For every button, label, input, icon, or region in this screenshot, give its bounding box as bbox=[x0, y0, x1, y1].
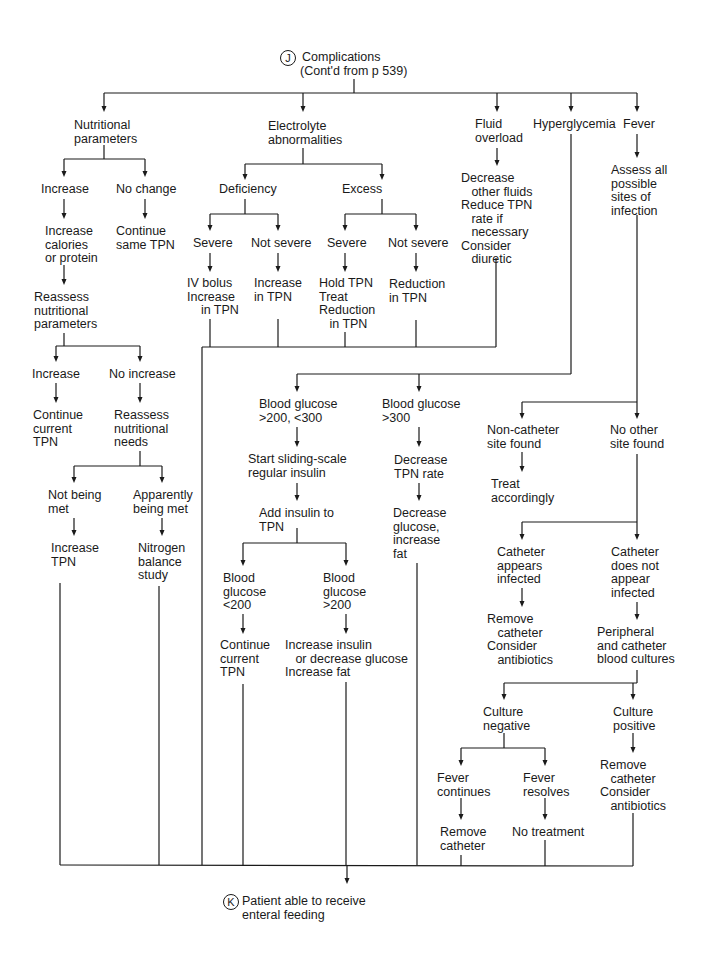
node-reassess-needs: Reassessnutritionalneeds bbox=[114, 409, 169, 450]
node-sliding-scale-insulin: Start sliding-scaleregular insulin bbox=[248, 453, 347, 480]
node-reduction-in-tpn: Reductionin TPN bbox=[389, 278, 445, 305]
node-line: Blood glucose bbox=[382, 398, 461, 412]
node-line: Blood bbox=[323, 572, 366, 586]
node-line: Not severe bbox=[388, 237, 448, 251]
arrowhead bbox=[301, 106, 306, 112]
node-line: Apparently bbox=[133, 489, 193, 503]
node-line: appears bbox=[497, 560, 545, 574]
node-line: Severe bbox=[193, 237, 233, 251]
node-line: Patient able to receive bbox=[242, 895, 366, 909]
header-subtitle: (Cont'd from p 539) bbox=[300, 65, 407, 79]
node-line: Catheter bbox=[497, 546, 545, 560]
node-line: accordingly bbox=[491, 492, 554, 506]
node-fluid-overload: Fluidoverload bbox=[475, 118, 523, 145]
node-increase-tpn: IncreaseTPN bbox=[51, 542, 99, 569]
arrowhead bbox=[276, 266, 281, 272]
node-fever: Fever bbox=[623, 118, 655, 132]
node-line: infected bbox=[611, 587, 659, 601]
arrowhead bbox=[631, 694, 636, 700]
node-no-other-site: No othersite found bbox=[610, 424, 664, 451]
arrowhead bbox=[417, 386, 422, 392]
node-line: No treatment bbox=[512, 826, 584, 840]
connector-marker-k: K bbox=[223, 894, 239, 910]
arrowhead bbox=[635, 106, 640, 112]
node-line: <200 bbox=[223, 599, 266, 613]
node-electrolyte-abnormalities: Electrolyteabnormalities bbox=[268, 120, 342, 147]
arrowhead bbox=[54, 356, 59, 362]
arrowhead bbox=[160, 477, 165, 483]
node-line: Remove bbox=[440, 826, 487, 840]
node-line: TPN bbox=[33, 436, 83, 450]
node-line: Culture bbox=[483, 706, 530, 720]
node-np-no-change: No change bbox=[116, 183, 176, 197]
arrowhead bbox=[72, 530, 77, 536]
node-line: necessary bbox=[461, 226, 533, 240]
arrowhead bbox=[208, 225, 213, 231]
node-line: other fluids bbox=[461, 186, 533, 200]
arrowhead bbox=[520, 534, 525, 540]
arrowhead bbox=[54, 397, 59, 403]
node-line: Fluid bbox=[475, 118, 523, 132]
node-line: glucose bbox=[323, 586, 366, 600]
node-line: catheter bbox=[600, 773, 666, 787]
arrowhead bbox=[343, 266, 348, 272]
arrowhead bbox=[62, 171, 67, 177]
node-continue-current-tpn-2: ContinuecurrentTPN bbox=[220, 639, 270, 680]
node-line: met bbox=[48, 503, 102, 517]
arrowhead bbox=[241, 560, 246, 566]
node-line: Continue bbox=[220, 639, 270, 653]
node-decrease-glucose: Decreaseglucose,increasefat bbox=[393, 507, 447, 561]
node-line: fat bbox=[393, 548, 447, 562]
footer-outcome: Patient able to receiveenteral feeding bbox=[242, 895, 366, 922]
arrowhead bbox=[414, 266, 419, 272]
node-deficiency-severe: Severe bbox=[193, 237, 233, 251]
node-line: nutritional bbox=[34, 305, 97, 319]
node-no-treatment: No treatment bbox=[512, 826, 584, 840]
node-line: resolves bbox=[523, 786, 570, 800]
node-line: glucose, bbox=[393, 521, 447, 535]
arrowhead bbox=[543, 760, 548, 766]
arrowhead bbox=[295, 495, 300, 501]
node-line: sites of bbox=[611, 191, 667, 205]
node-reassess-parameters: Reassessnutritionalparameters bbox=[34, 291, 97, 332]
node-hyperglycemia: Hyperglycemia bbox=[533, 118, 616, 132]
arrowhead bbox=[295, 441, 300, 447]
arrowhead bbox=[102, 106, 107, 112]
node-line: Reassess bbox=[114, 409, 169, 423]
node-catheter-not-infected: Catheterdoes notappearinfected bbox=[611, 546, 659, 600]
arrowhead bbox=[414, 225, 419, 231]
arrowhead bbox=[459, 814, 464, 820]
arrowhead bbox=[520, 601, 525, 607]
node-blood-glucose-300: Blood glucose>300 bbox=[382, 398, 461, 425]
arrowhead bbox=[62, 213, 67, 219]
node-deficiency: Deficiency bbox=[219, 183, 277, 197]
arrowhead bbox=[138, 397, 143, 403]
node-line: in TPN bbox=[319, 318, 375, 332]
node-line: Increase bbox=[254, 277, 302, 291]
arrowhead bbox=[345, 878, 350, 884]
node-apparently-being-met: Apparentlybeing met bbox=[133, 489, 193, 516]
node-excess-severe: Severe bbox=[327, 237, 367, 251]
node-line: balance bbox=[138, 556, 185, 570]
node-line: catheter bbox=[440, 840, 487, 854]
node-excess-not-severe: Not severe bbox=[388, 237, 448, 251]
node-line: being met bbox=[133, 503, 193, 517]
arrowhead bbox=[344, 628, 349, 634]
node-line: Assess all bbox=[611, 164, 667, 178]
arrowhead bbox=[243, 174, 248, 180]
node-rp-increase: Increase bbox=[32, 368, 80, 382]
node-line: calories bbox=[45, 239, 98, 253]
node-line: same TPN bbox=[116, 239, 175, 253]
arrowhead bbox=[520, 413, 525, 419]
arrowhead bbox=[635, 614, 640, 620]
arrowhead bbox=[631, 747, 636, 753]
arrowhead bbox=[380, 174, 385, 180]
arrowhead bbox=[344, 560, 349, 566]
node-line: and catheter bbox=[597, 640, 675, 654]
node-line: study bbox=[138, 569, 185, 583]
node-remove-catheter-antibiotics-2: Remove catheterConsider antibiotics bbox=[600, 759, 666, 813]
node-line: positive bbox=[613, 720, 655, 734]
node-line: >300 bbox=[382, 412, 461, 426]
header-title: Complications bbox=[302, 51, 381, 65]
node-line: Remove bbox=[600, 759, 666, 773]
